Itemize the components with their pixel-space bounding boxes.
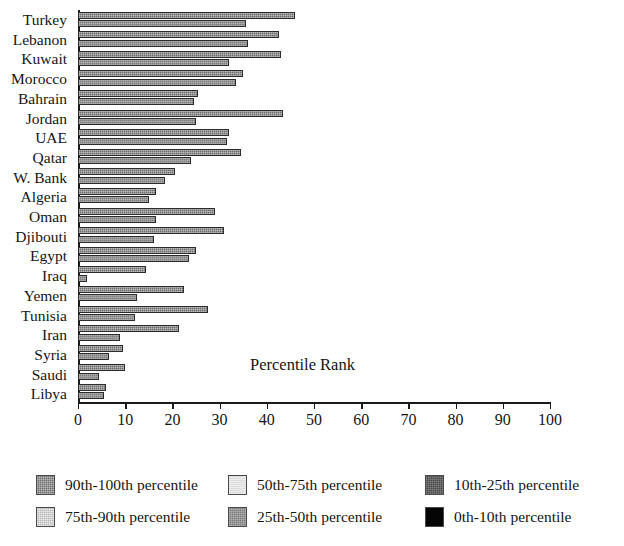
legend-swatch xyxy=(228,475,247,495)
bar xyxy=(78,12,295,19)
bar-group xyxy=(78,110,550,130)
bar xyxy=(78,118,196,125)
y-axis-label: Iraq xyxy=(0,268,72,284)
legend-swatch xyxy=(425,507,444,527)
legend-label: 50th-75th percentile xyxy=(257,476,382,494)
x-axis-tick xyxy=(408,402,409,409)
bar xyxy=(78,110,283,117)
bar xyxy=(78,20,246,27)
x-axis-tick xyxy=(550,402,551,409)
bar-group xyxy=(78,12,550,32)
bar-group xyxy=(78,227,550,247)
bar-chart: TurkeyLebanonKuwaitMoroccoBahrainJordanU… xyxy=(0,0,624,440)
legend-item: 0th-10th percentile xyxy=(425,506,572,528)
x-axis-tick xyxy=(314,402,315,409)
y-axis-label: Saudi xyxy=(0,367,72,383)
y-axis-category-labels: TurkeyLebanonKuwaitMoroccoBahrainJordanU… xyxy=(0,12,72,402)
bar xyxy=(78,255,189,262)
x-axis-tick-label: 40 xyxy=(259,411,275,429)
bar xyxy=(78,373,99,380)
legend-item: 90th-100th percentile xyxy=(36,474,198,496)
bar xyxy=(78,392,104,399)
legend-label: 10th-25th percentile xyxy=(454,476,579,494)
bar xyxy=(78,247,196,254)
legend-swatch xyxy=(36,475,55,495)
plot-title: Percentile Rank xyxy=(250,355,355,375)
legend-label: 0th-10th percentile xyxy=(454,508,572,526)
bar xyxy=(78,59,229,66)
bar xyxy=(78,168,175,175)
y-axis-label: Egypt xyxy=(0,248,72,264)
legend-item: 10th-25th percentile xyxy=(425,474,579,496)
bar xyxy=(78,90,198,97)
bar xyxy=(78,79,236,86)
y-axis-label: Kuwait xyxy=(0,51,72,67)
bar-group xyxy=(78,70,550,90)
y-axis-label: Qatar xyxy=(0,150,72,166)
y-axis-label: Oman xyxy=(0,209,72,225)
y-axis-label: UAE xyxy=(0,130,72,146)
bar xyxy=(78,138,227,145)
bar xyxy=(78,236,154,243)
y-axis-label: W. Bank xyxy=(0,170,72,186)
x-axis-tick xyxy=(125,402,126,409)
bar xyxy=(78,325,179,332)
y-axis-label: Yemen xyxy=(0,288,72,304)
y-axis-label: Djibouti xyxy=(0,229,72,245)
bar xyxy=(78,364,125,371)
y-axis-label: Bahrain xyxy=(0,91,72,107)
x-axis-tick-label: 0 xyxy=(74,411,82,429)
bar xyxy=(78,334,120,341)
x-axis-tick-label: 100 xyxy=(538,411,562,429)
y-axis-label: Turkey xyxy=(0,12,72,28)
y-axis-label: Libya xyxy=(0,386,72,402)
x-axis-tick xyxy=(172,402,173,409)
bar xyxy=(78,216,156,223)
legend-item: 50th-75th percentile xyxy=(228,474,382,496)
bar-group xyxy=(78,168,550,188)
bar-group xyxy=(78,384,550,404)
plot-region xyxy=(78,10,550,402)
y-axis-label: Syria xyxy=(0,347,72,363)
legend-swatch xyxy=(228,507,247,527)
x-axis-tick-label: 50 xyxy=(306,411,322,429)
x-axis-tick-label: 10 xyxy=(117,411,133,429)
y-axis-label: Jordan xyxy=(0,111,72,127)
bar xyxy=(78,227,224,234)
x-axis-tick xyxy=(267,402,268,409)
bar xyxy=(78,353,109,360)
bar-group xyxy=(78,266,550,286)
chart-legend: 90th-100th percentile75th-90th percentil… xyxy=(0,466,624,546)
bar-group xyxy=(78,129,550,149)
x-axis-tick-label: 60 xyxy=(353,411,369,429)
bar xyxy=(78,157,191,164)
bar xyxy=(78,51,281,58)
bar xyxy=(78,70,243,77)
bar-group xyxy=(78,325,550,345)
y-axis-label: Algeria xyxy=(0,189,72,205)
x-axis-tick xyxy=(78,402,79,409)
bar xyxy=(78,188,156,195)
bar-group xyxy=(78,149,550,169)
legend-swatch xyxy=(425,475,444,495)
legend-label: 75th-90th percentile xyxy=(65,508,190,526)
bar xyxy=(78,345,123,352)
bar-group xyxy=(78,247,550,267)
bar xyxy=(78,129,229,136)
legend-swatch xyxy=(36,507,55,527)
x-axis-tick-label: 20 xyxy=(164,411,180,429)
bar-group xyxy=(78,208,550,228)
bar-group xyxy=(78,286,550,306)
bar xyxy=(78,149,241,156)
bar xyxy=(78,384,106,391)
bar xyxy=(78,177,165,184)
bar xyxy=(78,31,279,38)
bar-group xyxy=(78,51,550,71)
bar xyxy=(78,208,215,215)
bar xyxy=(78,196,149,203)
bar xyxy=(78,314,135,321)
bar-group xyxy=(78,90,550,110)
bar xyxy=(78,275,87,282)
bar-group xyxy=(78,31,550,51)
x-axis-tick-label: 30 xyxy=(212,411,228,429)
